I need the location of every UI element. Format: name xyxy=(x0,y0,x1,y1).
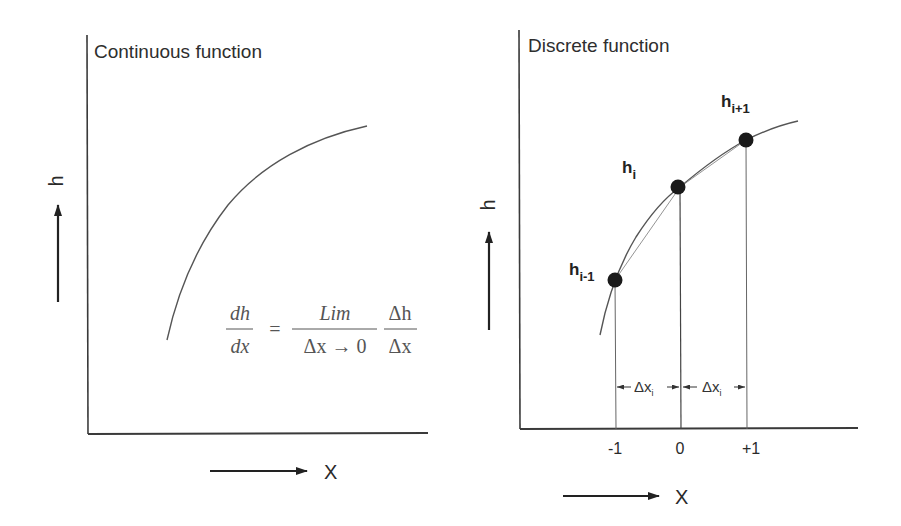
delta-x-interval-1: Δxi xyxy=(617,378,679,398)
svg-text:Δxi: Δxi xyxy=(634,378,654,398)
formula-lim-condition: Δx → 0 xyxy=(304,335,367,357)
label-h-i-minus-1: hi-1 xyxy=(569,260,595,284)
vline-0 xyxy=(680,188,681,429)
formula-lhs-denominator: dx xyxy=(231,335,250,357)
delta-x-interval-2: Δxi xyxy=(683,378,745,398)
right-y-axis xyxy=(519,30,520,429)
formula-rhs-denominator: Δx xyxy=(389,335,412,357)
formula-rhs-numerator: Δh xyxy=(389,302,412,324)
right-x-axis xyxy=(520,428,858,429)
continuous-title: Continuous function xyxy=(94,41,262,62)
point-h-i-plus-1 xyxy=(739,133,754,148)
vline-minus1 xyxy=(615,280,616,429)
formula-lim: Lim xyxy=(318,302,350,324)
left-x-axis xyxy=(88,433,428,434)
diagram-canvas: Continuous function h X dh dx = Lim Δx →… xyxy=(0,0,901,526)
label-h-i-plus-1: hi+1 xyxy=(721,92,750,116)
tick-plus-1: +1 xyxy=(742,440,760,457)
tick-0: 0 xyxy=(676,440,685,457)
left-x-axis-label: X xyxy=(324,461,337,483)
point-h-i xyxy=(671,180,686,195)
formula-equals: = xyxy=(269,318,280,340)
point-h-i-minus-1 xyxy=(608,273,623,288)
tick-minus-1: -1 xyxy=(608,440,622,457)
right-y-axis-label: h xyxy=(477,199,499,210)
right-x-axis-label: X xyxy=(675,486,688,508)
vline-plus1 xyxy=(746,140,747,429)
left-y-axis xyxy=(87,35,88,434)
discrete-panel: Discrete function hi-1 hi hi+1 Δxi xyxy=(477,30,858,508)
label-h-i: hi xyxy=(622,158,636,182)
discrete-curve xyxy=(600,121,798,335)
discrete-title: Discrete function xyxy=(528,35,670,56)
left-y-axis-label: h xyxy=(45,175,67,186)
continuous-panel: Continuous function h X dh dx = Lim Δx →… xyxy=(45,35,428,483)
derivative-formula: dh dx = Lim Δx → 0 Δh Δx xyxy=(226,302,417,357)
formula-lhs-numerator: dh xyxy=(230,302,250,324)
svg-text:Δxi: Δxi xyxy=(702,378,722,398)
